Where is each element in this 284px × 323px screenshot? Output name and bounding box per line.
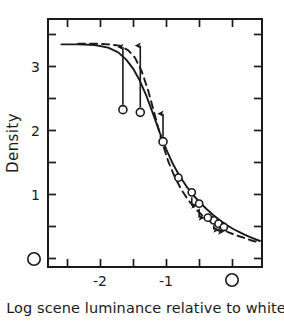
- data-point-open-circle: [220, 223, 227, 230]
- x-tick-label-zero-glyph: [226, 274, 238, 286]
- y-tick-label-3: 3: [31, 59, 40, 75]
- y-tick-label-1: 1: [31, 187, 40, 203]
- x-tick-label-minus1: -1: [159, 273, 173, 289]
- data-point-open-circle: [204, 214, 211, 221]
- data-point-open-circle: [119, 106, 127, 114]
- y-axis-title: Density: [4, 113, 22, 173]
- x-axis-caption: Log scene luminance relative to white: [6, 300, 284, 316]
- y-axis-ticks: [48, 35, 56, 259]
- data-point-open-circle: [188, 189, 195, 196]
- y-tick-label-zero-glyph: [28, 253, 40, 265]
- arrow-annotations-layer: [123, 46, 219, 232]
- x-tick-label-minus2: -2: [93, 273, 107, 289]
- top-axis-ticks: [68, 19, 233, 27]
- data-point-open-circle: [196, 200, 203, 207]
- x-axis-ticks: [68, 259, 233, 267]
- data-point-open-circle: [175, 174, 182, 181]
- right-axis-ticks: [254, 35, 262, 259]
- data-point-open-circle: [136, 108, 144, 116]
- plot-frame: [48, 19, 262, 267]
- data-points-layer: [119, 106, 228, 231]
- y-tick-label-2: 2: [31, 123, 40, 139]
- data-point-open-circle: [159, 138, 167, 146]
- density-vs-log-luminance-chart: 3 2 1 -2 -1 Density Log scene luminance …: [0, 0, 284, 323]
- dashed-characteristic-curve: [78, 44, 260, 243]
